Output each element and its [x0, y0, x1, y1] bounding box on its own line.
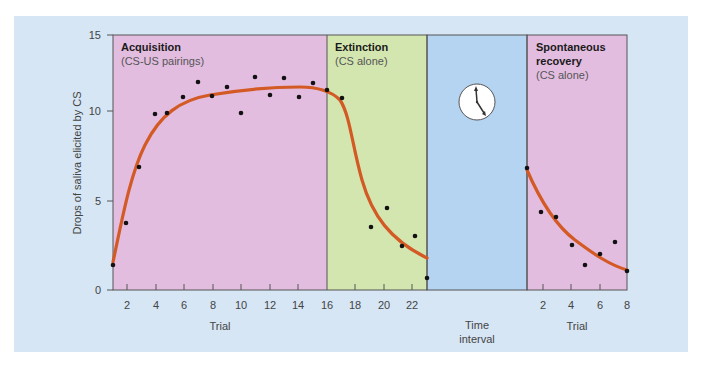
acquisition-region — [113, 35, 327, 290]
x-axis-label-trial-left: Trial — [210, 320, 231, 332]
y-tick-15: 15 — [89, 29, 101, 41]
svg-text:22: 22 — [406, 299, 418, 311]
svg-text:6: 6 — [181, 299, 187, 311]
clock-icon — [459, 84, 495, 120]
svg-text:2: 2 — [540, 299, 546, 311]
recovery-title-line2: recovery — [536, 55, 583, 67]
extinction-title: Extinction — [335, 41, 388, 53]
svg-text:8: 8 — [210, 299, 216, 311]
acquisition-subtitle: (CS-US pairings) — [121, 55, 204, 67]
svg-text:4: 4 — [153, 299, 159, 311]
recovery-subtitle: (CS alone) — [536, 69, 589, 81]
extinction-subtitle: (CS alone) — [335, 55, 388, 67]
svg-text:4: 4 — [568, 299, 574, 311]
svg-text:20: 20 — [378, 299, 390, 311]
svg-text:8: 8 — [624, 299, 630, 311]
svg-text:12: 12 — [264, 299, 276, 311]
y-tick-0: 0 — [95, 284, 101, 296]
x-axis-label-trial-right: Trial — [567, 320, 588, 332]
y-tick-5: 5 — [95, 195, 101, 207]
x-axis-label-time: Time — [465, 319, 489, 331]
y-axis-ticks — [107, 35, 113, 290]
y-axis-label: Drops of saliva elicited by CS — [71, 91, 83, 234]
x-tick-labels-acquisition: 2 4 6 8 10 12 14 16 — [124, 299, 333, 311]
acquisition-title: Acquisition — [121, 41, 181, 53]
y-tick-10: 10 — [89, 105, 101, 117]
time-interval-region — [427, 35, 527, 290]
extinction-region — [327, 35, 427, 290]
svg-text:16: 16 — [321, 299, 333, 311]
svg-text:18: 18 — [349, 299, 361, 311]
x-tick-labels-extinction: 18 20 22 — [349, 299, 418, 311]
classical-conditioning-chart: 15 10 5 0 Drops of saliva elicited by CS… — [0, 0, 704, 371]
x-axis-label-interval: interval — [459, 333, 494, 345]
svg-text:6: 6 — [597, 299, 603, 311]
svg-text:2: 2 — [124, 299, 130, 311]
svg-text:14: 14 — [292, 299, 304, 311]
x-tick-labels-recovery: 2 4 6 8 — [540, 299, 630, 311]
svg-text:10: 10 — [235, 299, 247, 311]
recovery-title-line1: Spontaneous — [536, 41, 606, 53]
